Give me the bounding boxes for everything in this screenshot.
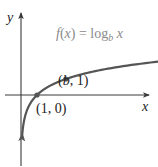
log-curve xyxy=(22,60,158,134)
function-label-prefix: f(x) = log xyxy=(56,26,108,42)
label-b: b xyxy=(63,73,70,88)
function-label-suffix: x xyxy=(113,26,124,41)
x-axis-label: x xyxy=(141,99,149,114)
log-function-graph: y x (1, 0) (b, 1) f(x) = logb x xyxy=(0,0,158,167)
point-1-0 xyxy=(34,92,39,97)
y-axis-label: y xyxy=(5,10,14,25)
point-b-1-label: (b, 1) xyxy=(58,73,89,89)
func-eq: ) = log xyxy=(71,26,108,42)
function-label: f(x) = logb x xyxy=(56,26,124,43)
label-rest: , 1) xyxy=(70,73,89,89)
point-1-0-label: (1, 0) xyxy=(36,101,67,117)
